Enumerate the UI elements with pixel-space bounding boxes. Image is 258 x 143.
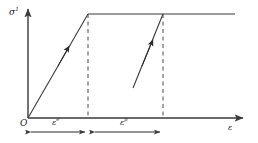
dashed-guides-group [88, 14, 163, 118]
y-axis-label-superscript: 1 [15, 6, 19, 12]
x-axis-label: ε [228, 124, 232, 132]
y-axis-label: σ1 [9, 8, 19, 17]
elastic-strain-label: εe [52, 119, 59, 127]
stress-strain-figure: σ1 ε O εe εp [0, 0, 258, 143]
curve-group [28, 14, 235, 118]
stress-strain-plot [0, 0, 258, 143]
reloading-direction-arrow [142, 42, 152, 66]
plastic-strain-label: εp [120, 119, 127, 127]
elastic-strain-label-superscript: e [56, 116, 59, 122]
axes-group [28, 9, 243, 118]
plastic-strain-label-superscript: p [124, 116, 127, 122]
x-axis-label-text: ε [228, 123, 232, 132]
origin-label-text: O [20, 118, 27, 128]
elastic-loading-direction-arrow [58, 48, 68, 66]
origin-label: O [20, 119, 27, 128]
